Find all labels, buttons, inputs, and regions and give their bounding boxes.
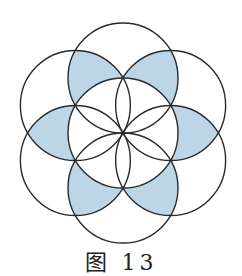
center-point [121, 131, 124, 134]
figure-caption: 图 13 [0, 250, 242, 276]
seed-of-life-figure [0, 0, 242, 250]
